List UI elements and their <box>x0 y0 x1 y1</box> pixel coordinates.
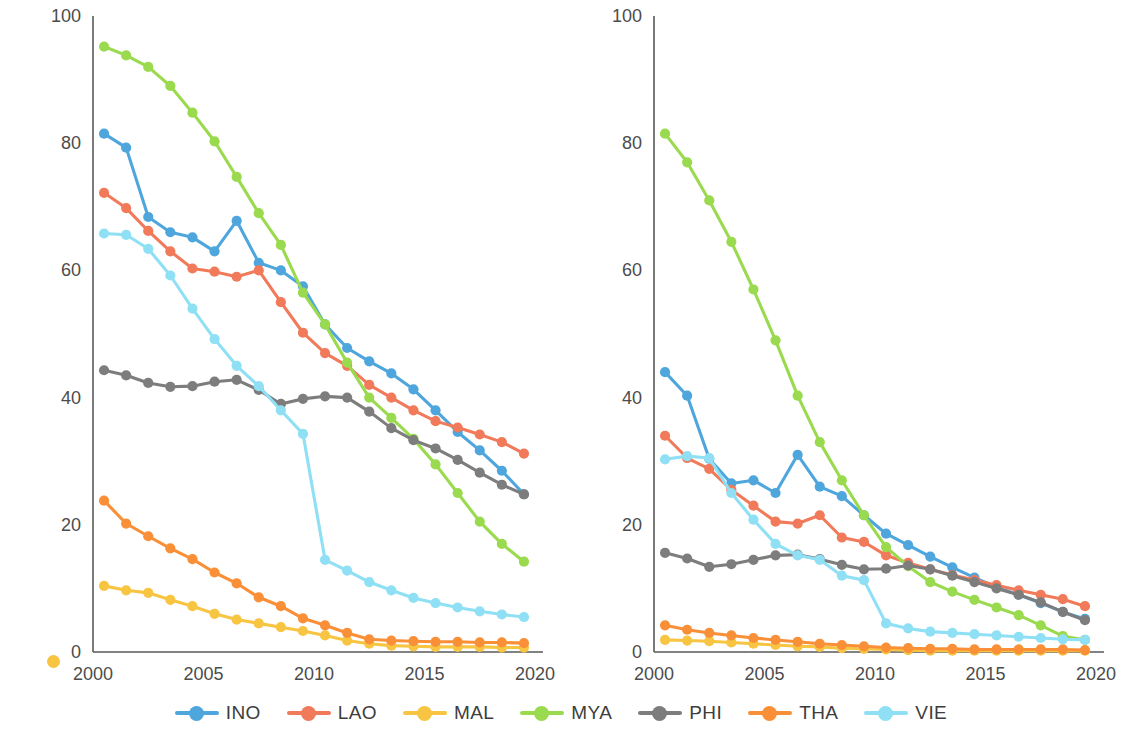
y-axis-tick-label: 60 <box>622 260 642 280</box>
data-point <box>991 644 1001 654</box>
data-point <box>187 232 197 242</box>
legend-swatch-icon <box>520 704 564 722</box>
y-axis-tick-label: 100 <box>612 6 642 26</box>
x-axis-tick-label: 2005 <box>744 664 784 684</box>
legend-item-thailand[interactable]: THA <box>748 702 838 724</box>
data-point <box>1080 635 1090 645</box>
legend-item-malaysia[interactable]: MAL <box>403 702 494 724</box>
line-chart-left: 02040608010020002005201020152020 <box>0 0 561 690</box>
data-point <box>232 172 242 182</box>
data-point <box>682 391 692 401</box>
legend-label: INO <box>226 702 261 724</box>
legend-dot-icon <box>534 706 549 721</box>
data-point <box>165 382 175 392</box>
data-point <box>770 488 780 498</box>
data-point <box>143 212 153 222</box>
legend-item-myanmar[interactable]: MYA <box>520 702 612 724</box>
data-point <box>209 567 219 577</box>
legend-label: PHI <box>689 702 722 724</box>
data-point <box>165 227 175 237</box>
data-point <box>682 451 692 461</box>
data-point <box>364 380 374 390</box>
data-point <box>276 405 286 415</box>
data-point <box>660 454 670 464</box>
data-point <box>748 284 758 294</box>
data-point <box>99 496 109 506</box>
data-point <box>209 246 219 256</box>
data-point <box>748 475 758 485</box>
data-point <box>475 445 485 455</box>
legend-item-philippines[interactable]: PHI <box>638 702 722 724</box>
data-point <box>475 517 485 527</box>
data-point <box>726 237 736 247</box>
data-point <box>430 598 440 608</box>
legend-swatch-icon <box>175 704 219 722</box>
data-point <box>475 429 485 439</box>
data-point <box>925 577 935 587</box>
chart-legend: INOLAOMALMYAPHITHAVIE <box>0 690 1122 736</box>
data-point <box>165 595 175 605</box>
data-point <box>748 501 758 511</box>
legend-item-laos[interactable]: LAO <box>287 702 377 724</box>
data-point <box>364 406 374 416</box>
x-axis-tick-label: 2010 <box>855 664 895 684</box>
data-point <box>232 216 242 226</box>
data-point <box>143 244 153 254</box>
data-point <box>660 431 670 441</box>
data-point <box>497 466 507 476</box>
y-axis-tick-label: 40 <box>622 388 642 408</box>
legend-label: LAO <box>338 702 377 724</box>
data-point <box>859 575 869 585</box>
data-point <box>209 609 219 619</box>
data-point <box>1058 644 1068 654</box>
data-point <box>903 540 913 550</box>
data-point <box>1036 597 1046 607</box>
y-axis-tick-label: 0 <box>632 642 642 662</box>
data-point <box>1014 590 1024 600</box>
data-point <box>704 195 714 205</box>
data-point <box>320 555 330 565</box>
data-point <box>726 630 736 640</box>
data-point <box>519 638 529 648</box>
data-point <box>408 405 418 415</box>
data-point <box>430 405 440 415</box>
data-point <box>837 560 847 570</box>
data-point <box>859 537 869 547</box>
data-point <box>881 542 891 552</box>
data-point <box>364 634 374 644</box>
legend-dot-icon <box>417 706 432 721</box>
data-point <box>121 518 131 528</box>
data-point <box>276 265 286 275</box>
y-axis-tick-label: 20 <box>622 515 642 535</box>
data-point <box>342 343 352 353</box>
data-point <box>1058 607 1068 617</box>
data-point <box>726 488 736 498</box>
data-point <box>837 475 847 485</box>
data-point <box>453 488 463 498</box>
x-axis-tick-label: 2015 <box>965 664 1005 684</box>
data-point <box>837 571 847 581</box>
legend-item-indonesia[interactable]: INO <box>175 702 261 724</box>
data-point <box>748 633 758 643</box>
legend-label: MYA <box>571 702 612 724</box>
data-point <box>209 334 219 344</box>
data-point <box>1036 644 1046 654</box>
data-point <box>1080 601 1090 611</box>
legend-swatch-icon <box>748 704 792 722</box>
data-point <box>121 203 131 213</box>
data-point <box>519 612 529 622</box>
data-point <box>925 644 935 654</box>
data-point <box>519 448 529 458</box>
series-line <box>104 501 524 643</box>
legend-label: THA <box>799 702 838 724</box>
legend-item-vietnam[interactable]: VIE <box>864 702 947 724</box>
data-point <box>386 585 396 595</box>
data-point <box>298 429 308 439</box>
legend-label: VIE <box>915 702 947 724</box>
data-point <box>99 41 109 51</box>
data-point <box>99 228 109 238</box>
data-point <box>991 602 1001 612</box>
series-tha <box>99 496 529 649</box>
data-point <box>837 532 847 542</box>
data-point <box>1014 632 1024 642</box>
